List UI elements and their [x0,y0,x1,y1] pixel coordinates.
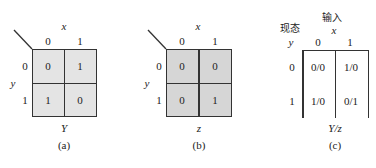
state-title-c: 现态 [280,23,300,35]
table-c-mid-rule [335,50,337,118]
col-header-c-0: 0 [315,36,321,48]
col-header-b-1: 1 [212,35,218,47]
output-label-c: Y/z [328,122,341,134]
col-header-b-0: 0 [179,35,185,47]
col-header-c-1: 1 [347,36,353,48]
table-c-right-rule [368,50,370,118]
cell-b-1-1: 1 [212,94,218,106]
row-header-b-1: 1 [156,94,162,106]
input-title-c: 输入 [322,12,342,24]
cell-c-0-0: 0/0 [311,61,325,73]
caption-c: (c) [329,139,341,151]
row-header-b-0: 0 [156,60,162,72]
row-var-b: y [145,77,150,89]
row-header-c-1: 1 [289,95,295,107]
table-c-left-rule [302,50,304,118]
cell-c-1-0: 1/0 [311,95,325,107]
row-header-c-0: 0 [289,61,295,73]
cell-b-0-0: 0 [179,60,185,72]
col-var-b: x [196,20,201,32]
row-var-c: y [289,36,294,48]
cell-c-1-1: 0/1 [344,95,358,107]
col-var-c: x [332,24,337,36]
grid-b-hdivider [166,83,232,85]
cell-b-1-0: 0 [179,94,185,106]
cell-b-0-1: 0 [212,60,218,72]
cell-c-0-1: 1/0 [344,61,358,73]
caption-b: (b) [193,139,206,151]
output-label-b: z [197,122,201,134]
